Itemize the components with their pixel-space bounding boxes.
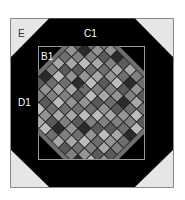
label-inner-corner-b1: B1 [41, 51, 54, 62]
quilt-diagram: E C1 B1 D1 A [0, 0, 185, 200]
label-top-border-c1: C1 [84, 28, 97, 39]
label-side-border-d1: D1 [18, 97, 31, 108]
label-corner-e: E [18, 28, 25, 39]
label-center-tile-a: A [77, 79, 84, 90]
